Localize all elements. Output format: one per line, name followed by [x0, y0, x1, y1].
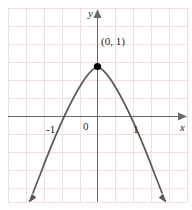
x-axis-label: x	[180, 122, 185, 133]
curve-left-arrowhead	[30, 195, 36, 202]
x-axis-arrowhead	[178, 113, 187, 121]
x-tick-label-negative-one: -1	[46, 124, 55, 135]
vertex-point	[94, 63, 101, 70]
curve-right-arrowhead	[160, 195, 166, 202]
parabola-plot	[0, 0, 192, 210]
y-axis-arrowhead	[94, 9, 102, 18]
graph-figure: y x (0, 1) 0 -1 1	[0, 0, 192, 210]
vertex-coordinate-label: (0, 1)	[101, 36, 125, 47]
x-tick-label-positive-one: 1	[133, 124, 139, 135]
y-axis-label: y	[88, 8, 93, 19]
origin-tick-label: 0	[83, 121, 89, 132]
